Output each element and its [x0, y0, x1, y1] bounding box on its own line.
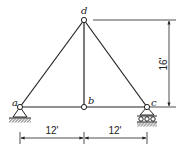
node-label-c: c: [151, 98, 157, 108]
joint-b: [81, 104, 86, 109]
joint-c: [144, 104, 149, 109]
node-label-d: d: [81, 6, 87, 16]
node-label-a: a: [12, 98, 18, 108]
member-dc: [84, 20, 147, 107]
span-dimension: [20, 132, 147, 144]
joint-d: [81, 17, 86, 22]
node-label-b: b: [88, 96, 94, 106]
truss-members: [20, 20, 147, 107]
span-left-label: 12': [42, 126, 62, 136]
joint-a: [17, 104, 22, 109]
span-right-label: 12': [105, 126, 125, 136]
height-label: 16': [159, 56, 169, 72]
truss-diagram: [0, 0, 183, 152]
member-ad: [20, 20, 84, 107]
